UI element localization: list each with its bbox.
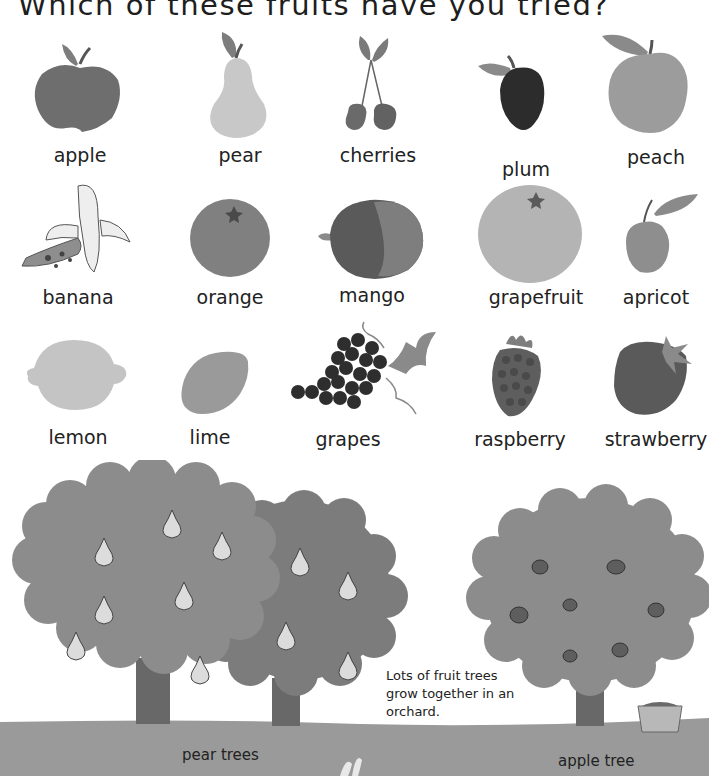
apple-basket	[638, 702, 682, 732]
fruit-apple: apple	[20, 40, 140, 170]
apple-tree-label: apple tree	[558, 752, 635, 770]
banana-icon	[18, 176, 148, 281]
fruit-label: apple	[20, 144, 140, 166]
fruit-label: apricot	[596, 286, 709, 308]
fruit-label: cherries	[318, 144, 438, 166]
orange-icon	[170, 196, 290, 281]
apple-icon	[20, 40, 140, 140]
cherries-icon	[318, 30, 438, 140]
fruit-label: lime	[150, 426, 270, 448]
pear-icon	[180, 28, 300, 143]
fruit-label: mango	[312, 284, 432, 306]
fruit-label: grapes	[288, 428, 408, 450]
plum-icon	[466, 40, 586, 140]
fruit-grapefruit: grapefruit	[476, 184, 596, 314]
fruit-apricot: apricot	[596, 192, 709, 322]
fruit-raspberry: raspberry	[460, 330, 580, 460]
apricot-icon	[596, 192, 709, 282]
pear-trees-label: pear trees	[182, 746, 259, 764]
fruit-plum: plum	[466, 40, 586, 170]
grapes-icon	[288, 318, 438, 418]
fruit-lemon: lemon	[18, 334, 138, 464]
strawberry-icon	[596, 330, 709, 420]
orchard-caption: Lots of fruit trees grow together in an …	[386, 667, 516, 721]
fruit-strawberry: strawberry	[596, 330, 709, 460]
fruit-cherries: cherries	[318, 30, 438, 160]
fruit-label: plum	[466, 158, 586, 180]
fruit-label: lemon	[18, 426, 138, 448]
fruit-lime: lime	[150, 344, 270, 474]
fruit-label: strawberry	[596, 428, 709, 450]
mango-icon	[312, 194, 442, 284]
fruit-label: grapefruit	[476, 286, 596, 308]
orchard-illustration	[0, 460, 709, 776]
fruit-label: orange	[170, 286, 290, 308]
peach-icon	[596, 28, 709, 138]
fruit-label: banana	[18, 286, 138, 308]
grapefruit-icon	[476, 184, 596, 284]
raspberry-icon	[460, 330, 580, 420]
fruit-label: peach	[596, 146, 709, 168]
page-title: Which of these fruits have you tried?	[18, 0, 609, 22]
fruit-orange: orange	[170, 196, 290, 326]
fruit-peach: peach	[596, 28, 709, 158]
lime-icon	[150, 344, 270, 419]
fruit-pear: pear	[180, 28, 300, 158]
fruit-mango: mango	[312, 194, 432, 324]
fruit-banana: banana	[18, 176, 138, 306]
fruit-grapes: grapes	[288, 318, 408, 448]
lemon-icon	[18, 334, 138, 419]
fruit-label: raspberry	[460, 428, 580, 450]
fruit-label: pear	[180, 144, 300, 166]
orchard-scene	[0, 460, 709, 776]
